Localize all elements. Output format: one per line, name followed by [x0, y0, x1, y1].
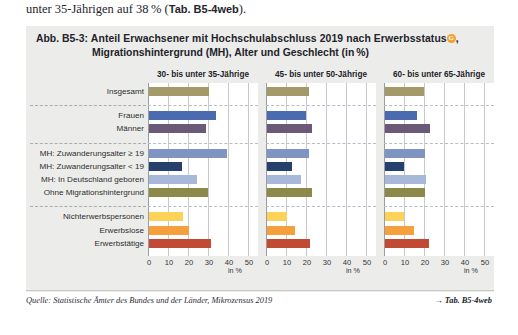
bar: [385, 212, 404, 221]
x-tick-label: 30: [201, 258, 217, 267]
footer-divider: [26, 290, 494, 291]
bar: [149, 162, 182, 171]
plot-area: 30- bis unter 35-Jährige45- bis unter 50…: [26, 70, 494, 270]
column-header-2: 45- bis unter 50-Jährige: [266, 70, 376, 82]
group-separator: [148, 105, 258, 106]
bar: [385, 239, 429, 248]
figure-title-line1: Anteil Erwachsener mit Hochschulabschlus…: [91, 33, 447, 44]
gridline-50: [248, 83, 249, 256]
bar: [267, 226, 295, 235]
gridline-40: [228, 83, 229, 256]
bar: [385, 111, 417, 120]
gridline-30: [444, 83, 445, 256]
bar: [385, 226, 414, 235]
row-label-3: Männer: [117, 124, 144, 133]
bar: [267, 188, 312, 197]
x-tick-label: 10: [397, 258, 413, 267]
bar: [385, 124, 430, 133]
bar: [149, 188, 208, 197]
bar: [149, 212, 183, 221]
intro-table-reference: Tab. B5-4web: [169, 3, 239, 15]
x-tick-label: 0: [259, 258, 275, 267]
group-separator: [384, 105, 494, 106]
figure-title-comma: ,: [456, 33, 459, 44]
bar: [267, 87, 309, 96]
row-label-7: Ohne Migrationshintergrund: [44, 188, 144, 197]
figure-panel: Abb. B5-3: Anteil Erwachsener mit Hochsc…: [26, 26, 494, 292]
bar: [149, 111, 216, 120]
intro-text-after: ).: [239, 2, 246, 16]
row-label-9: Erwerbslose: [99, 226, 144, 235]
x-tick-label: 20: [417, 258, 433, 267]
gridline-50: [366, 83, 367, 256]
bar: [267, 111, 306, 120]
gridline-20: [424, 83, 425, 256]
bar: [385, 188, 425, 197]
x-tick-label: 0: [141, 258, 157, 267]
chart-column-2: [266, 83, 376, 256]
bar: [385, 149, 425, 158]
x-tick-label: 0: [377, 258, 393, 267]
bar: [149, 239, 211, 248]
x-axis-unit-label: in %: [220, 266, 250, 275]
column-header-1: 30- bis unter 35-Jährige: [148, 70, 258, 82]
group-separator: [384, 206, 494, 207]
group-separator: [148, 143, 258, 144]
bar: [149, 87, 209, 96]
group-separator-left: [30, 105, 146, 106]
row-label-10: Erwerbstätige: [95, 239, 144, 248]
group-separator: [266, 206, 376, 207]
bar: [149, 226, 189, 235]
x-tick-label: 30: [437, 258, 453, 267]
x-axis-unit-label: in %: [338, 266, 368, 275]
gridline-40: [346, 83, 347, 256]
row-label-6: MH: In Deutschland geboren: [41, 175, 144, 184]
bar: [267, 212, 287, 221]
row-label-5: MH: Zuwanderungsalter < 19: [39, 162, 144, 171]
bar: [267, 149, 309, 158]
table-reference-link[interactable]: → Tab. B5-4web: [434, 296, 492, 305]
gridline-40: [464, 83, 465, 256]
bar: [385, 162, 404, 171]
group-separator-left: [30, 206, 146, 207]
row-label-4: MH: Zuwanderungsalter ≥ 19: [40, 149, 144, 158]
intro-paragraph: unter 35-Jährigen auf 38 % (Tab. B5-4web…: [26, 2, 496, 17]
gridline-50: [484, 83, 485, 256]
bar: [267, 239, 310, 248]
x-tick-label: 20: [299, 258, 315, 267]
figure-title-line2: Migrationshintergrund (MH), Alter und Ge…: [36, 46, 486, 60]
row-label-2: Frauen: [118, 111, 144, 120]
x-axis-unit-label: in %: [456, 266, 486, 275]
bar: [385, 87, 424, 96]
column-header-3: 60- bis unter 65-Jährige: [384, 70, 494, 82]
gridline-20: [306, 83, 307, 256]
gridline-30: [208, 83, 209, 256]
bar: [149, 149, 227, 158]
bar: [267, 175, 301, 184]
bar: [149, 175, 197, 184]
group-separator-left: [30, 143, 146, 144]
glossary-marker-icon[interactable]: G: [447, 34, 456, 43]
chart-column-1: [148, 83, 258, 256]
x-tick-label: 20: [181, 258, 197, 267]
bar: [149, 124, 206, 133]
bar: [267, 162, 292, 171]
row-label-1: Insgesamt: [107, 87, 144, 96]
chart-column-3: [384, 83, 494, 256]
group-separator: [148, 206, 258, 207]
group-separator: [266, 143, 376, 144]
row-label-8: Nichterwerbspersonen: [63, 212, 144, 221]
x-tick-label: 30: [319, 258, 335, 267]
group-separator: [266, 105, 376, 106]
x-tick-label: 10: [279, 258, 295, 267]
x-tick-label: 10: [161, 258, 177, 267]
group-separator: [384, 143, 494, 144]
figure-number: Abb. B5-3:: [36, 33, 88, 44]
intro-text-before: unter 35-Jährigen auf 38 % (: [26, 2, 169, 16]
gridline-30: [326, 83, 327, 256]
figure-title: Abb. B5-3: Anteil Erwachsener mit Hochsc…: [36, 32, 486, 59]
source-note: Quelle: Statistische Ämter des Bundes un…: [26, 296, 496, 305]
bar: [385, 175, 426, 184]
bar: [267, 124, 312, 133]
